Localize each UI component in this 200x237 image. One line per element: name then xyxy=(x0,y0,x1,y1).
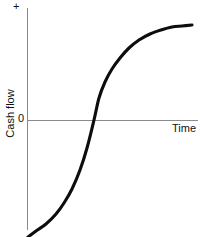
chart-canvas xyxy=(0,0,200,237)
x-axis-label: Time xyxy=(172,123,196,134)
positive-axis-label: + xyxy=(13,1,19,12)
cash-flow-curve xyxy=(28,25,192,237)
zero-axis-label: 0 xyxy=(18,113,24,124)
y-axis-label: Cash flow xyxy=(5,81,16,147)
cash-flow-chart-figure: + 0 Time Cash flow xyxy=(0,0,200,237)
